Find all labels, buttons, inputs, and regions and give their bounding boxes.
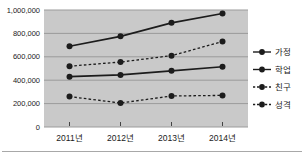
data-point	[169, 53, 175, 59]
chart-figure: 0200,000400,000600,000800,0001,000,00020…	[0, 0, 304, 153]
y-axis-label: 1,000,000	[7, 6, 40, 15]
legend-key-marker	[259, 67, 265, 73]
data-point	[118, 72, 124, 78]
data-point	[220, 11, 226, 17]
data-point	[67, 63, 73, 69]
data-point	[118, 100, 124, 106]
legend-key-marker	[259, 49, 265, 55]
legend-label: 성격	[275, 100, 291, 110]
y-axis-label: 400,000	[13, 76, 40, 85]
data-point	[118, 59, 124, 65]
data-point	[67, 43, 73, 49]
plot-area	[44, 10, 248, 127]
legend-key-marker	[259, 84, 265, 90]
data-point	[220, 64, 226, 70]
y-axis-label: 0	[36, 123, 40, 132]
x-axis-label: 2013년	[158, 133, 185, 143]
data-point	[169, 68, 175, 74]
legend-label: 학업	[275, 65, 291, 75]
data-point	[169, 20, 175, 26]
y-axis-label: 200,000	[13, 99, 40, 108]
x-axis-label: 2012년	[107, 133, 134, 143]
legend-label: 친구	[275, 82, 291, 92]
data-point	[220, 92, 226, 98]
legend-label: 가정	[275, 47, 291, 57]
data-point	[118, 33, 124, 39]
y-axis-label: 600,000	[13, 52, 40, 61]
data-point	[169, 93, 175, 99]
y-axis-label: 800,000	[13, 29, 40, 38]
x-axis-label: 2011년	[56, 133, 82, 143]
scan-artifact-line	[2, 151, 302, 152]
legend-key-marker	[259, 102, 265, 108]
data-point	[67, 94, 73, 100]
data-point	[67, 74, 73, 80]
chart-canvas: 0200,000400,000600,000800,0001,000,00020…	[0, 0, 304, 153]
x-axis-label: 2014년	[209, 133, 236, 143]
data-point	[220, 39, 226, 45]
